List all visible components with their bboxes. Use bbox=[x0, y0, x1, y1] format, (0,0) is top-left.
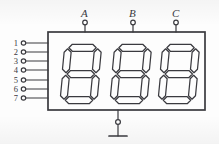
seven-segment-digit-3-segment-c bbox=[189, 75, 198, 99]
pin-label-6: 6 bbox=[8, 85, 18, 94]
pin-label-4: 4 bbox=[8, 66, 18, 75]
seven-segment-digit-3-segment-a bbox=[167, 44, 194, 51]
pin-label-1: 1 bbox=[8, 39, 18, 48]
seven-segment-digit-3-segment-g bbox=[165, 71, 192, 78]
seven-segment-digit-3-segment-f bbox=[160, 49, 169, 73]
seven-segment-digit-1-segment-b bbox=[92, 49, 101, 73]
seven-segment-digits-layer bbox=[0, 0, 219, 144]
seven-segment-digit-2-segment-f bbox=[112, 49, 121, 73]
seven-segment-digit-1-segment-f bbox=[62, 49, 71, 73]
terminal-a-label: A bbox=[81, 8, 88, 19]
pin-label-7: 7 bbox=[8, 94, 18, 103]
pin-label-5: 5 bbox=[8, 76, 18, 85]
pin-label-2: 2 bbox=[8, 48, 18, 57]
seven-segment-digit-1-segment-d bbox=[65, 97, 92, 104]
seven-segment-digit-1-segment-e bbox=[61, 75, 70, 99]
seven-segment-digit-3-segment-d bbox=[163, 97, 190, 104]
seven-segment-digit-2-segment-b bbox=[142, 49, 151, 73]
seven-segment-digit-2-segment-e bbox=[111, 75, 120, 99]
seven-segment-digit-2 bbox=[111, 44, 152, 103]
seven-segment-digit-1-segment-c bbox=[91, 75, 100, 99]
pin-label-3: 3 bbox=[8, 57, 18, 66]
seven-segment-digit-3 bbox=[159, 44, 200, 103]
seven-segment-digit-2-segment-c bbox=[141, 75, 150, 99]
seven-segment-digit-1 bbox=[61, 44, 102, 103]
seven-segment-display-diagram: ABC 1234567 bbox=[0, 0, 219, 144]
seven-segment-digit-3-segment-e bbox=[159, 75, 168, 99]
terminal-b-label: B bbox=[129, 8, 136, 19]
seven-segment-digit-1-segment-a bbox=[69, 44, 96, 51]
seven-segment-digit-3-segment-b bbox=[190, 49, 199, 73]
seven-segment-digit-2-segment-g bbox=[117, 71, 144, 78]
seven-segment-digit-1-segment-g bbox=[67, 71, 94, 78]
seven-segment-digit-2-segment-d bbox=[115, 97, 142, 104]
seven-segment-digit-2-segment-a bbox=[119, 44, 146, 51]
terminal-c-label: C bbox=[172, 8, 179, 19]
